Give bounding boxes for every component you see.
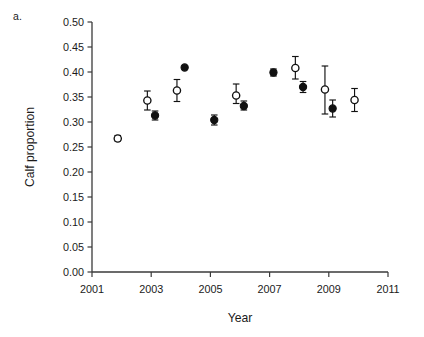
marker-filled-circle — [299, 83, 306, 90]
marker-open-circle — [173, 87, 180, 94]
x-tick-label: 2003 — [139, 283, 163, 295]
y-tick-label: 0.05 — [63, 241, 84, 253]
y-tick-label: 0.00 — [63, 266, 84, 278]
marker-filled-circle — [270, 69, 277, 76]
data-point — [351, 89, 358, 112]
data-point — [321, 66, 328, 114]
y-tick-label: 0.50 — [63, 16, 84, 28]
data-point — [173, 80, 180, 102]
marker-filled-circle — [329, 105, 336, 112]
data-point — [292, 57, 299, 80]
scatter-plot: 0.000.050.100.150.200.250.300.350.400.45… — [0, 0, 424, 337]
data-point — [299, 82, 306, 93]
data-point — [240, 101, 247, 110]
y-tick-label: 0.35 — [63, 91, 84, 103]
x-axis: 200120032005200720092011 — [80, 272, 400, 295]
marker-open-circle — [292, 64, 299, 71]
y-tick-label: 0.15 — [63, 191, 84, 203]
series-filled-circle — [151, 64, 336, 125]
y-tick-label: 0.40 — [63, 66, 84, 78]
y-axis-title: Calf proportion — [23, 107, 37, 187]
data-series-layer — [114, 57, 358, 143]
x-axis-title: Year — [228, 311, 253, 325]
marker-open-circle — [351, 96, 358, 103]
data-point — [114, 135, 121, 142]
data-point — [144, 91, 151, 110]
x-tick-label: 2005 — [198, 283, 222, 295]
data-point — [151, 111, 158, 120]
y-tick-label: 0.30 — [63, 116, 84, 128]
x-tick-label: 2011 — [376, 283, 399, 295]
data-point — [329, 100, 336, 117]
marker-open-circle — [233, 92, 240, 99]
data-point — [181, 64, 188, 71]
marker-filled-circle — [240, 102, 247, 109]
y-tick-label: 0.45 — [63, 41, 84, 53]
marker-open-circle — [114, 135, 121, 142]
y-tick-label: 0.25 — [63, 141, 84, 153]
data-point — [270, 69, 277, 76]
marker-open-circle — [144, 97, 151, 104]
marker-open-circle — [321, 86, 328, 93]
series-open-circle — [114, 57, 358, 143]
figure-panel: a. 0.000.050.100.150.200.250.300.350.400… — [0, 0, 424, 337]
marker-filled-circle — [181, 64, 188, 71]
x-tick-label: 2009 — [317, 283, 341, 295]
data-point — [233, 84, 240, 104]
y-axis: 0.000.050.100.150.200.250.300.350.400.45… — [63, 16, 92, 278]
y-tick-label: 0.20 — [63, 166, 84, 178]
x-tick-label: 2001 — [80, 283, 104, 295]
data-point — [211, 115, 218, 125]
marker-filled-circle — [211, 116, 218, 123]
marker-filled-circle — [151, 112, 158, 119]
y-tick-label: 0.10 — [63, 216, 84, 228]
x-tick-label: 2007 — [258, 283, 282, 295]
